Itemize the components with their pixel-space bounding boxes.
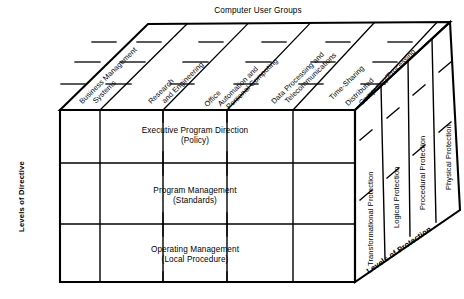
protection-level-physical: Physical Protection [445,124,454,190]
directive-level-name: Operating Management [95,245,295,255]
directive-level-qualifier: (Local Procedure) [95,255,295,265]
protection-level-logical: Logical Protection [393,167,402,228]
directive-level-name: Program Management [95,186,295,196]
directive-level-qualifier: (Policy) [95,136,295,146]
directive-level-program-management: Program Management (Standards) [95,186,295,205]
axis-label-levels-of-directive: Levels of Directive [18,156,27,236]
directive-level-name: Executive Program Direction [95,126,295,136]
directive-level-executive-program-direction: Executive Program Direction (Policy) [95,126,295,145]
diagram-canvas: Computer User Groups Levels of Directive… [0,0,464,299]
directive-level-operating-management: Operating Management (Local Procedure) [95,245,295,264]
protection-level-transformational: Transformational Protection [367,171,376,266]
directive-level-qualifier: (Standards) [95,196,295,206]
page-title: Computer User Groups [178,6,338,16]
protection-level-procedural: Procedural Protection [419,136,428,210]
